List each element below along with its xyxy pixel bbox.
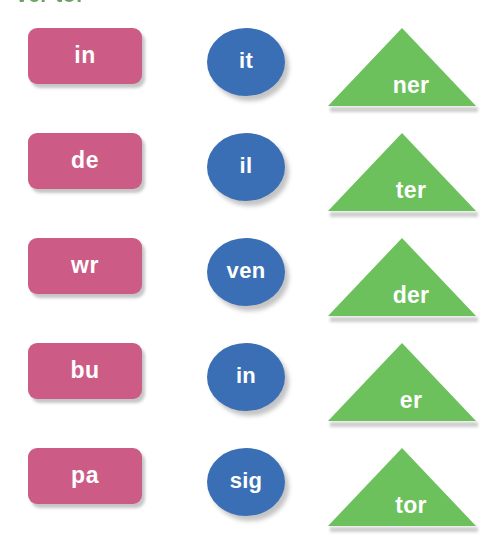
syllable-label: der bbox=[328, 238, 476, 316]
pink-rounded-rectangle[interactable]: bu bbox=[28, 343, 142, 399]
syllable-label: wr bbox=[71, 254, 99, 277]
triangle-card[interactable]: tor bbox=[328, 448, 476, 526]
ellipse-card[interactable]: il bbox=[207, 133, 285, 201]
board-row: bu in er bbox=[0, 343, 491, 448]
blue-ellipse[interactable]: ven bbox=[207, 238, 285, 306]
syllable-label: tor bbox=[328, 448, 476, 526]
syllable-label: er bbox=[328, 343, 476, 421]
pink-rounded-rectangle[interactable]: pa bbox=[28, 448, 142, 504]
board-row: pa sig tor bbox=[0, 448, 491, 539]
green-triangle[interactable]: er bbox=[328, 343, 476, 421]
green-triangle[interactable]: ner bbox=[328, 28, 476, 106]
triangle-card[interactable]: ner bbox=[328, 28, 476, 106]
ellipse-card[interactable]: in bbox=[207, 343, 285, 411]
green-triangle[interactable]: tor bbox=[328, 448, 476, 526]
pink-rounded-rectangle[interactable]: wr bbox=[28, 238, 142, 294]
syllable-label: il bbox=[240, 155, 253, 177]
triangle-shadow bbox=[330, 107, 478, 112]
triangle-card[interactable]: ter bbox=[328, 133, 476, 211]
syllable-label: in bbox=[236, 365, 256, 387]
rect-card[interactable]: wr bbox=[28, 238, 142, 294]
syllable-label: pa bbox=[71, 464, 99, 487]
rect-card[interactable]: de bbox=[28, 133, 142, 189]
ellipse-card[interactable]: sig bbox=[207, 448, 285, 516]
blue-ellipse[interactable]: in bbox=[207, 343, 285, 411]
triangle-shadow bbox=[330, 212, 478, 217]
triangle-shadow bbox=[330, 527, 478, 532]
board-row: de il ter bbox=[0, 133, 491, 238]
rect-card[interactable]: in bbox=[28, 28, 142, 84]
green-triangle[interactable]: der bbox=[328, 238, 476, 316]
blue-ellipse[interactable]: it bbox=[207, 28, 285, 96]
triangle-shadow bbox=[330, 317, 478, 322]
green-triangle[interactable]: ter bbox=[328, 133, 476, 211]
ellipse-card[interactable]: ven bbox=[207, 238, 285, 306]
syllable-label: in bbox=[74, 44, 95, 67]
ellipse-card[interactable]: it bbox=[207, 28, 285, 96]
triangle-card[interactable]: er bbox=[328, 343, 476, 421]
syllable-label: sig bbox=[230, 470, 263, 492]
pink-rounded-rectangle[interactable]: de bbox=[28, 133, 142, 189]
blue-ellipse[interactable]: sig bbox=[207, 448, 285, 516]
triangle-shadow bbox=[330, 422, 478, 427]
rect-card[interactable]: bu bbox=[28, 343, 142, 399]
blue-ellipse[interactable]: il bbox=[207, 133, 285, 201]
syllable-label: ven bbox=[227, 260, 266, 282]
syllable-label: it bbox=[239, 50, 253, 72]
board-row: in it ner bbox=[0, 28, 491, 133]
pink-rounded-rectangle[interactable]: in bbox=[28, 28, 142, 84]
syllable-label: de bbox=[71, 149, 99, 172]
triangle-card[interactable]: der bbox=[328, 238, 476, 316]
syllable-label: ner bbox=[328, 28, 476, 106]
syllable-label: bu bbox=[70, 359, 99, 382]
board-row: wr ven der bbox=[0, 238, 491, 343]
syllable-label: ter bbox=[328, 133, 476, 211]
rect-card[interactable]: pa bbox=[28, 448, 142, 504]
